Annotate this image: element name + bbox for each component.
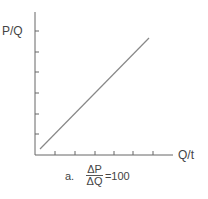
data-line	[40, 38, 149, 149]
caption-label: a.	[65, 170, 74, 182]
caption: a. ΔP ΔQ =100	[65, 164, 130, 187]
slope-fraction: ΔP ΔQ	[86, 164, 103, 187]
x-axis-label: Q/t	[178, 148, 194, 162]
x-ticks	[55, 151, 153, 155]
slope-value: =100	[105, 170, 130, 182]
y-ticks	[35, 31, 39, 134]
y-axis-label: P/Q	[2, 24, 23, 38]
fraction-denominator: ΔQ	[87, 176, 103, 187]
